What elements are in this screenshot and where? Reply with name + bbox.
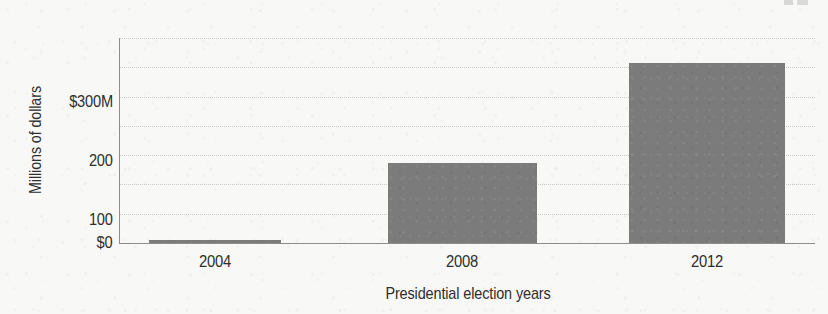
bar-2004	[149, 240, 281, 243]
plot-area	[120, 38, 815, 243]
y-tick-label-200: 200	[89, 151, 113, 171]
bar-chart: Millions of dollars $300M 200 100 $0	[0, 0, 828, 314]
bar-2008	[388, 163, 537, 243]
y-tick-label-0: $0	[97, 233, 113, 253]
x-axis-line	[119, 243, 815, 244]
y-axis-tick-labels: $300M 200 100 $0	[0, 38, 113, 243]
gridline-350	[120, 38, 815, 39]
bar-2012	[629, 63, 785, 243]
x-axis-title: Presidential election years	[371, 284, 565, 304]
x-axis-title-text: Presidential election years	[385, 284, 550, 304]
x-tick-label-2008: 2008	[446, 252, 478, 272]
x-tick-label-2004: 2004	[199, 252, 231, 272]
y-tick-label-300: $300M	[69, 92, 113, 112]
scanned-page: Millions of dollars $300M 200 100 $0	[0, 0, 828, 314]
y-tick-label-100: 100	[89, 210, 113, 230]
x-axis-tick-labels: 2004 2008 2012	[120, 252, 815, 278]
x-tick-label-2012: 2012	[691, 252, 723, 272]
